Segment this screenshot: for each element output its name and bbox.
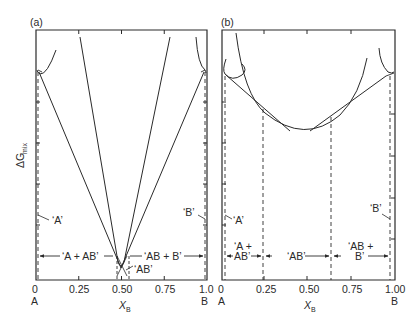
panel-b-label-AB-plus-B-2: B’ <box>355 250 364 262</box>
panel-b-tick-075: 0.75 <box>342 283 363 295</box>
panel-b-label-A: ‘A’ <box>233 214 244 226</box>
panel-b-end-B: B <box>391 295 398 307</box>
panel-b-tag: (b) <box>221 16 234 28</box>
panel-b-tick-025: 0.25 <box>256 283 277 295</box>
panel-a-end-A: A <box>31 295 38 307</box>
panel-a-tick-0: 0 <box>32 283 38 295</box>
panel-b-x-axis-label: X B <box>303 299 316 313</box>
panel-b-tick-0: 0 <box>218 283 224 295</box>
panel-b-tick-050: 0.50 <box>299 283 320 295</box>
panel-a-label-A-plus-AB: ‘A + AB’ <box>62 250 98 262</box>
panel-a-label-AB-plus-B: ‘AB + B’ <box>144 250 182 262</box>
svg-text:B: B <box>311 306 316 313</box>
panel-a-tick-050: 0.50 <box>112 283 133 295</box>
panel-b-label-B: ‘B’ <box>370 202 382 214</box>
panel-a-tick-100: 1.0 <box>199 283 214 295</box>
panel-b-label-AB: ‘AB’ <box>287 250 306 262</box>
panel-a-tag: (a) <box>30 16 43 28</box>
panel-a-label-AB: ‘AB’ <box>134 263 153 275</box>
y-axis-label: ΔG mix <box>14 143 28 168</box>
panel-a-label-B: ‘B’ <box>183 206 195 218</box>
panel-a-label-A: ‘A’ <box>52 214 63 226</box>
panel-a <box>36 30 207 280</box>
panel-a-tick-025: 0.25 <box>69 283 90 295</box>
panel-a-end-B: B <box>201 295 208 307</box>
panel-a-tick-075: 0.75 <box>155 283 176 295</box>
svg-text:ΔG: ΔG <box>14 153 26 168</box>
panel-b-label-A-plus-AB-2: AB’ <box>234 250 250 262</box>
panel-a-frame <box>36 30 207 280</box>
panel-b-end-A: A <box>218 295 225 307</box>
svg-text:B: B <box>126 306 131 313</box>
svg-text:mix: mix <box>21 143 28 154</box>
panel-b-tick-100: 1.00 <box>385 283 406 295</box>
free-energy-diagram: (a) ‘A’ ‘B’ ‘A + AB’ ‘AB + B’ ‘AB’ 0 0.2… <box>0 0 419 325</box>
panel-a-x-axis-label: X B <box>118 299 131 313</box>
